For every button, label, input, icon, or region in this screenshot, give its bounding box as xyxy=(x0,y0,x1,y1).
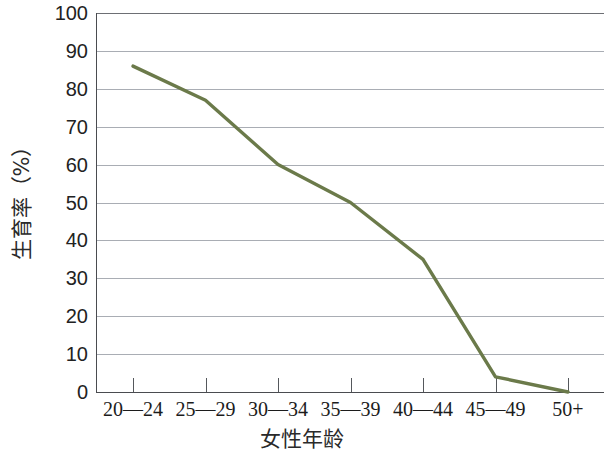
gridline-40 xyxy=(96,240,604,241)
x-tick-mark-3 xyxy=(351,378,352,392)
x-tick-mark-5 xyxy=(496,378,497,392)
gridline-70 xyxy=(96,127,604,128)
y-tick-label-30: 30 xyxy=(28,268,88,288)
x-tick-mark-2 xyxy=(278,378,279,392)
gridline-80 xyxy=(96,89,604,90)
gridline-30 xyxy=(96,278,604,279)
y-tick-label-100: 100 xyxy=(28,3,88,23)
x-tick-label-6: 50+ xyxy=(552,398,583,420)
fertility-rate-line-chart: 生育率（%） 1009080706050403020100 20—2425—29… xyxy=(0,0,604,460)
gridline-100 xyxy=(96,13,604,14)
y-tick-label-90: 90 xyxy=(28,41,88,61)
gridline-20 xyxy=(96,316,604,317)
x-tick-label-2: 30—34 xyxy=(248,398,308,420)
plot-area xyxy=(96,13,604,392)
x-tick-label-1: 25—29 xyxy=(176,398,236,420)
x-axis-title: 女性年龄 xyxy=(0,427,604,451)
y-tick-label-10: 10 xyxy=(28,344,88,364)
gridline-50 xyxy=(96,203,604,204)
y-axis-tick-labels: 1009080706050403020100 xyxy=(28,0,88,460)
gridline-60 xyxy=(96,165,604,166)
gridline-90 xyxy=(96,51,604,52)
x-tick-mark-4 xyxy=(423,378,424,392)
y-tick-label-0: 0 xyxy=(28,382,88,402)
x-tick-mark-6 xyxy=(568,378,569,392)
y-tick-label-70: 70 xyxy=(28,117,88,137)
x-tick-mark-1 xyxy=(206,378,207,392)
x-tick-label-4: 40—44 xyxy=(393,398,453,420)
gridline-10 xyxy=(96,354,604,355)
x-tick-label-3: 35—39 xyxy=(321,398,381,420)
x-tick-label-5: 45—49 xyxy=(466,398,526,420)
y-tick-label-40: 40 xyxy=(28,230,88,250)
y-axis-line xyxy=(96,13,97,393)
y-tick-label-60: 60 xyxy=(28,155,88,175)
y-tick-label-80: 80 xyxy=(28,79,88,99)
x-tick-mark-0 xyxy=(133,378,134,392)
x-tick-label-0: 20—24 xyxy=(103,398,163,420)
y-tick-label-50: 50 xyxy=(28,193,88,213)
x-axis-line xyxy=(96,392,604,393)
y-tick-label-20: 20 xyxy=(28,306,88,326)
